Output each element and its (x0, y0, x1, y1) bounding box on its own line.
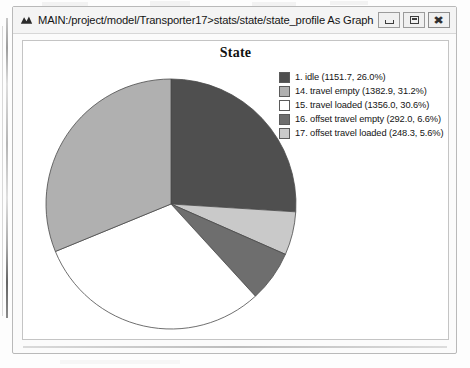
window-title: MAIN:/project/model/Transporter17>stats/… (38, 14, 378, 26)
close-icon: ✖ (434, 15, 445, 26)
minimize-icon (385, 20, 394, 24)
legend-item-label: 17. offset travel loaded (248.3, 5.6%) (295, 127, 444, 139)
close-button[interactable]: ✖ (428, 12, 450, 28)
legend-color-swatch (279, 72, 290, 83)
legend-item-label: 16. offset travel empty (292.0, 6.6%) (295, 113, 441, 125)
scan-artifact-line (6, 18, 8, 318)
chart-icon (20, 14, 33, 27)
legend-color-swatch (279, 114, 290, 125)
legend-item[interactable]: 14. travel empty (1382.9, 31.2%) (279, 85, 447, 98)
scan-smudge (60, 360, 180, 364)
chart-canvas: State 1. idle (1151.7, 26.0%)14. travel … (22, 40, 449, 340)
scan-smudge (330, 1, 368, 5)
legend-item-label: 14. travel empty (1382.9, 31.2%) (295, 85, 427, 97)
legend-item[interactable]: 16. offset travel empty (292.0, 6.6%) (279, 113, 447, 126)
title-bar[interactable]: MAIN:/project/model/Transporter17>stats/… (13, 7, 456, 34)
maximize-icon (410, 16, 419, 24)
legend-item[interactable]: 15. travel loaded (1356.0, 30.6%) (279, 99, 447, 112)
legend-item[interactable]: 17. offset travel loaded (248.3, 5.6%) (279, 127, 447, 140)
window-controls: ✖ (378, 12, 450, 28)
scan-artifact-line (2, 26, 3, 316)
legend-item[interactable]: 1. idle (1151.7, 26.0%) (279, 71, 447, 84)
legend-color-swatch (279, 86, 290, 97)
legend-color-swatch (279, 128, 290, 139)
maximize-button[interactable] (403, 12, 425, 28)
pie-slice[interactable] (171, 79, 296, 212)
minimize-button[interactable] (378, 12, 400, 28)
chart-legend: 1. idle (1151.7, 26.0%)14. travel empty … (279, 71, 447, 141)
pie-slices (46, 79, 296, 329)
window-bottom-edge (23, 346, 447, 348)
legend-item-label: 15. travel loaded (1356.0, 30.6%) (295, 99, 429, 111)
page-backdrop: MAIN:/project/model/Transporter17>stats/… (0, 0, 470, 368)
legend-color-swatch (279, 100, 290, 111)
legend-item-label: 1. idle (1151.7, 26.0%) (295, 71, 386, 83)
application-window: MAIN:/project/model/Transporter17>stats/… (12, 6, 457, 354)
